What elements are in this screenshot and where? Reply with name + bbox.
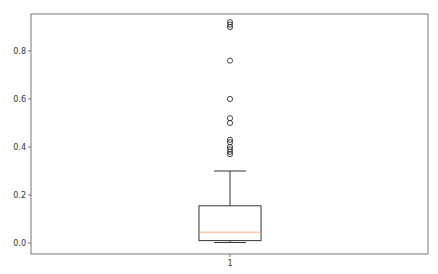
y-tick-label: 0.2 [13, 191, 26, 200]
y-tick-label: 0.8 [13, 47, 26, 56]
boxplot-chart: 0.00.20.40.60.81 [0, 0, 438, 274]
x-tick-label: 1 [227, 259, 232, 268]
outlier-point [227, 96, 232, 101]
plot-frame [31, 14, 428, 254]
y-tick-label: 0.0 [13, 239, 26, 248]
outlier-point [227, 58, 232, 63]
y-tick-label: 0.4 [13, 143, 26, 152]
box [199, 206, 261, 241]
y-tick-label: 0.6 [13, 95, 26, 104]
